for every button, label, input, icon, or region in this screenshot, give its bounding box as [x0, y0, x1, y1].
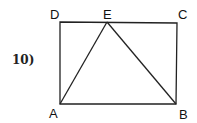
segment-eb — [107, 22, 176, 104]
label-d: D — [50, 7, 59, 22]
geometry-figure: 10) D E C A B — [0, 0, 197, 123]
label-a: A — [49, 106, 58, 121]
rectangle-abcd — [60, 22, 177, 104]
label-e: E — [103, 7, 112, 22]
label-b: B — [179, 107, 188, 122]
problem-number: 10) — [12, 53, 34, 67]
label-c: C — [178, 7, 187, 22]
segment-ae — [60, 22, 107, 104]
